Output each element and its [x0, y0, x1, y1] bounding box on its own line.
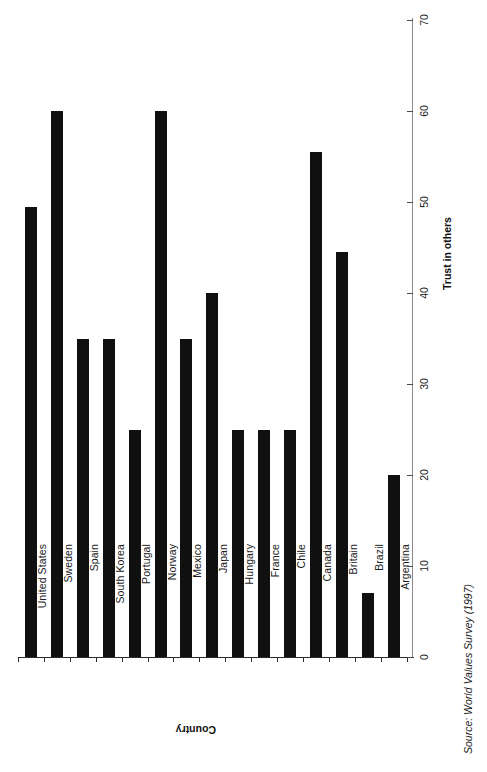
value-tick: [407, 20, 413, 21]
value-tick-label: 70: [418, 7, 430, 33]
category-tick-label: Sweden: [62, 544, 75, 664]
category-tick: [173, 657, 174, 662]
value-tick-label: 60: [418, 98, 430, 124]
category-tick-label: Norway: [166, 544, 179, 664]
category-tick: [148, 657, 149, 662]
category-tick: [277, 657, 278, 662]
category-tick-label: Portugal: [140, 544, 153, 664]
category-tick-label: South Korea: [114, 544, 127, 664]
value-tick: [407, 293, 413, 294]
bar: [129, 430, 141, 658]
category-tick: [251, 657, 252, 662]
value-tick-label: 0: [418, 644, 430, 670]
bar: [155, 111, 167, 657]
category-tick: [96, 657, 97, 662]
category-axis-title: Country: [176, 724, 216, 736]
value-tick: [407, 202, 413, 203]
value-tick-label: 50: [418, 189, 430, 215]
category-tick: [303, 657, 304, 662]
value-tick: [407, 657, 413, 658]
value-tick-label: 40: [418, 280, 430, 306]
category-tick: [70, 657, 71, 662]
category-tick-label: Spain: [88, 544, 101, 664]
category-tick-label: Brazil: [373, 544, 386, 664]
value-tick-label: 30: [418, 371, 430, 397]
value-tick: [407, 566, 413, 567]
bar: [77, 339, 89, 658]
category-tick-label: France: [269, 544, 282, 664]
bar: [388, 475, 400, 657]
value-tick: [407, 475, 413, 476]
category-tick-label: Canada: [321, 544, 334, 664]
category-tick-label: Britain: [347, 544, 360, 664]
category-tick: [199, 657, 200, 662]
category-tick: [122, 657, 123, 662]
bar: [103, 339, 115, 658]
value-tick-label: 10: [418, 553, 430, 579]
bar-chart-figure: Trust in others Country Source: World Va…: [0, 0, 487, 772]
bar: [336, 252, 348, 657]
category-tick: [355, 657, 356, 662]
category-tick: [225, 657, 226, 662]
bar: [362, 593, 374, 657]
category-tick-label: Mexico: [191, 544, 204, 664]
value-axis-title: Trust in others: [441, 217, 453, 290]
value-tick: [407, 111, 413, 112]
category-tick-label: Japan: [217, 544, 230, 664]
category-tick: [18, 657, 19, 662]
category-tick-label: Argentina: [399, 544, 412, 664]
category-tick: [329, 657, 330, 662]
category-tick: [381, 657, 382, 662]
value-axis-line: [412, 18, 413, 658]
value-tick: [407, 384, 413, 385]
category-tick-label: Hungary: [243, 544, 256, 664]
category-tick-label: Chile: [295, 544, 308, 664]
category-tick: [44, 657, 45, 662]
source-note: Source: World Values Survey (1997): [462, 584, 474, 754]
value-tick-label: 20: [418, 462, 430, 488]
category-tick-label: United States: [36, 544, 49, 664]
